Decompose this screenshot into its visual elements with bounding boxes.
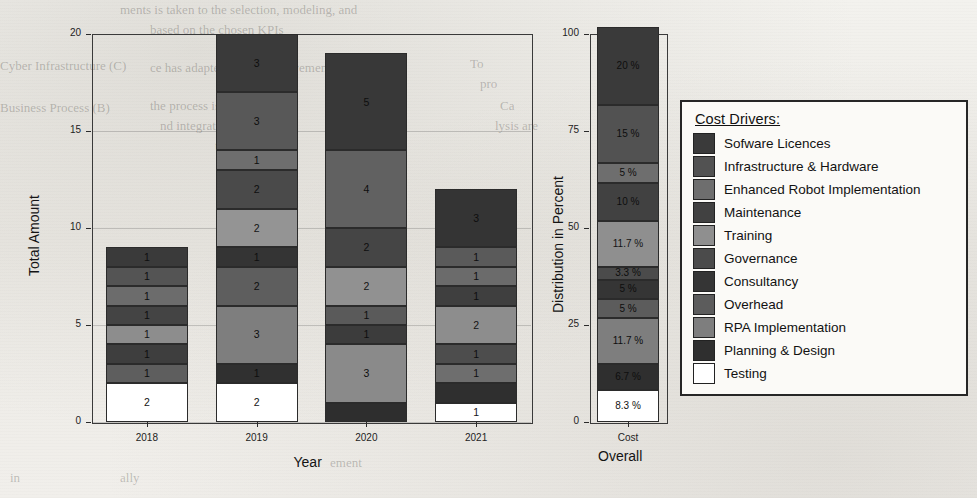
bar-segment[interactable]: 2 (216, 209, 298, 248)
legend-swatch-icon (693, 294, 715, 315)
x-tick-label-cost: Cost (598, 432, 658, 443)
legend-item-planning-design[interactable]: Planning & Design (693, 339, 954, 362)
distribution-segment-value: 15 % (617, 129, 640, 139)
legend-swatch-icon (693, 179, 715, 200)
bar-segment[interactable]: 1 (435, 267, 517, 286)
bar-segment[interactable]: 1 (435, 247, 517, 266)
legend-item-overhead[interactable]: Overhead (693, 293, 954, 316)
y-tick-label: 15 (0, 124, 81, 135)
bar-segment-value: 1 (144, 252, 150, 263)
bar-segment-value: 2 (254, 281, 260, 292)
distribution-segment[interactable]: 6.7 % (597, 364, 659, 390)
distribution-segment[interactable]: 8.3 % (597, 390, 659, 422)
bar-segment[interactable]: 1 (106, 267, 188, 286)
legend-item-testing[interactable]: Testing (693, 362, 954, 385)
bar-segment[interactable]: 3 (216, 92, 298, 150)
bar-segment[interactable]: 1 (325, 306, 407, 325)
distribution-segment[interactable]: 20 % (597, 27, 659, 105)
bar-segment[interactable]: 3 (325, 344, 407, 402)
bar-segment-value: 2 (254, 223, 260, 234)
y-tick-mark (584, 34, 589, 35)
y-tick-mark (584, 131, 589, 132)
bar-segment-value: 2 (254, 397, 260, 408)
legend-item-enhanced-robot-implementation[interactable]: Enhanced Robot Implementation (693, 178, 954, 201)
y-tick-label: 5 (0, 318, 81, 329)
distribution-segment[interactable]: 5 % (597, 163, 659, 182)
legend-item-training[interactable]: Training (693, 224, 954, 247)
x-tick-label-year: 2021 (446, 432, 506, 443)
bar-segment-value: 1 (473, 407, 479, 418)
left-x-axis-title: Year (294, 454, 322, 470)
bar-segment[interactable]: 2 (325, 267, 407, 306)
bar-segment[interactable]: 1 (435, 286, 517, 305)
bar-segment[interactable]: 1 (106, 247, 188, 266)
legend-item-label: Enhanced Robot Implementation (724, 183, 921, 197)
legend-item-consultancy[interactable]: Consultancy (693, 270, 954, 293)
bar-segment[interactable]: 2 (216, 383, 298, 422)
y-tick-label-percent: 25 (542, 318, 579, 329)
legend-item-governance[interactable]: Governance (693, 247, 954, 270)
bar-segment[interactable]: 1 (106, 306, 188, 325)
bar-segment[interactable]: 4 (325, 150, 407, 228)
bar-segment[interactable]: 1 (106, 344, 188, 363)
bar-segment[interactable]: 2 (435, 306, 517, 345)
legend-swatch-icon (693, 317, 715, 338)
bar-segment-value: 1 (254, 252, 260, 263)
bar-segment[interactable]: 3 (216, 306, 298, 364)
legend-item-label: Overhead (724, 298, 783, 312)
distribution-segment[interactable]: 15 % (597, 105, 659, 163)
bar-segment[interactable]: 1 (106, 364, 188, 383)
bar-segment-value: 3 (254, 116, 260, 127)
bar-segment[interactable] (435, 383, 517, 402)
bar-2018[interactable]: 21111111 (106, 34, 188, 422)
y-tick-mark (86, 325, 91, 326)
y-tick-mark (86, 34, 91, 35)
distribution-segment[interactable]: 11.7 % (597, 221, 659, 266)
bar-segment[interactable]: 1 (435, 344, 517, 363)
distribution-segment-value: 5 % (619, 168, 636, 178)
bar-segment[interactable]: 3 (216, 34, 298, 92)
bar-segment[interactable]: 1 (435, 403, 517, 422)
distribution-segment[interactable]: 11.7 % (597, 318, 659, 363)
bar-segment[interactable]: 3 (435, 189, 517, 247)
distribution-segment[interactable]: 10 % (597, 183, 659, 222)
bar-segment[interactable]: 2 (216, 170, 298, 209)
bar-segment-value: 1 (473, 252, 479, 263)
bar-2020[interactable]: 3112245 (325, 34, 407, 422)
legend-item-maintenance[interactable]: Maintenance (693, 201, 954, 224)
bar-segment-value: 1 (254, 155, 260, 166)
y-tick-label: 0 (0, 415, 81, 426)
bar-segment-value: 1 (144, 349, 150, 360)
bar-2021[interactable]: 11121113 (435, 34, 517, 422)
bar-segment[interactable]: 1 (216, 364, 298, 383)
bar-segment[interactable]: 1 (106, 325, 188, 344)
bar-segment[interactable]: 1 (435, 364, 517, 383)
bar-segment[interactable]: 5 (325, 53, 407, 150)
bar-segment[interactable]: 1 (106, 286, 188, 305)
y-tick-label-percent: 0 (542, 415, 579, 426)
bar-segment[interactable] (325, 403, 407, 422)
legend-item-rpa-implementation[interactable]: RPA Implementation (693, 316, 954, 339)
distribution-segment-value: 5 % (619, 304, 636, 314)
distribution-segment[interactable]: 3.3 % (597, 267, 659, 280)
legend-item-sofware-licences[interactable]: Sofware Licences (693, 132, 954, 155)
bar-2019[interactable]: 2132122133 (216, 34, 298, 422)
x-tick-mark (147, 422, 148, 427)
y-tick-mark (584, 325, 589, 326)
bar-segment[interactable]: 1 (216, 150, 298, 169)
legend-item-label: Governance (724, 252, 798, 266)
distribution-segment[interactable]: 5 % (597, 299, 659, 318)
bar-segment-value: 2 (473, 320, 479, 331)
bar-segment-value: 2 (363, 281, 369, 292)
bar-segment[interactable]: 2 (216, 267, 298, 306)
distribution-segment[interactable]: 5 % (597, 280, 659, 299)
bar-segment[interactable]: 1 (216, 247, 298, 266)
overall-distribution-bar: 8.3 %6.7 %11.7 %5 %5 %3.3 %11.7 %10 %5 %… (597, 34, 659, 422)
legend-item-infrastructure-hardware[interactable]: Infrastructure & Hardware (693, 155, 954, 178)
bar-segment[interactable]: 1 (325, 325, 407, 344)
legend-cost-drivers: Cost Drivers: Sofware LicencesInfrastruc… (680, 100, 968, 396)
bar-segment[interactable]: 2 (106, 383, 188, 422)
bar-segment[interactable]: 2 (325, 228, 407, 267)
distribution-segment-value: 5 % (619, 284, 636, 294)
legend-rows: Sofware LicencesInfrastructure & Hardwar… (693, 132, 954, 385)
